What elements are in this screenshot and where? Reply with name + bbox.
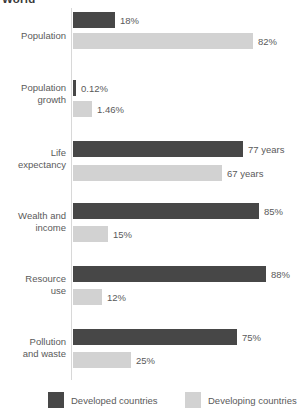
- category-label-line2: growth: [37, 94, 66, 105]
- bar-group: Populationgrowth0.12%1.46%: [0, 68, 305, 123]
- legend-item[interactable]: Developing countries: [185, 392, 297, 408]
- bar-group: Wealth andincome85%15%: [0, 198, 305, 253]
- bar-value-label: 18%: [120, 15, 139, 26]
- bar[interactable]: [73, 226, 108, 242]
- bar-row: 85%: [73, 203, 283, 219]
- bar-row: 15%: [73, 226, 132, 242]
- bar-row: 77 years: [73, 141, 284, 157]
- bar-row: 67 years: [73, 165, 263, 181]
- legend-label: Developed countries: [71, 395, 158, 406]
- bar-row: 75%: [73, 329, 261, 345]
- bar[interactable]: [73, 289, 102, 305]
- bar-value-label: 82%: [258, 36, 277, 47]
- bar[interactable]: [73, 329, 237, 345]
- bar[interactable]: [73, 33, 253, 49]
- bar-value-label: 12%: [107, 292, 126, 303]
- legend-label: Developing countries: [208, 395, 297, 406]
- bar[interactable]: [73, 12, 115, 28]
- category-label: Resourceuse: [0, 273, 66, 296]
- legend-swatch-icon: [185, 392, 201, 408]
- chart-container: World Population18%82%Populationgrowth0.…: [0, 0, 305, 419]
- bar-value-label: 15%: [113, 229, 132, 240]
- bar[interactable]: [73, 101, 92, 117]
- category-label-line2: expectancy: [18, 159, 66, 170]
- plot-area: Population18%82%Populationgrowth0.12%1.4…: [0, 8, 305, 378]
- bar-value-label: 1.46%: [97, 104, 124, 115]
- bar-row: 0.12%: [73, 80, 108, 96]
- category-label-line2: income: [35, 222, 66, 233]
- bar-value-label: 77 years: [248, 144, 284, 155]
- bar-row: 1.46%: [73, 101, 124, 117]
- bar-value-label: 75%: [242, 332, 261, 343]
- bar-row: 25%: [73, 352, 155, 368]
- bar-value-label: 88%: [271, 269, 290, 280]
- bar[interactable]: [73, 352, 131, 368]
- category-label: Populationgrowth: [0, 82, 66, 105]
- bar[interactable]: [73, 266, 266, 282]
- chart-legend: Developed countriesDeveloping countries: [0, 392, 305, 412]
- bar[interactable]: [73, 141, 243, 157]
- category-label-line2: and waste: [23, 348, 66, 359]
- category-label: Wealth andincome: [0, 210, 66, 233]
- bar[interactable]: [73, 165, 222, 181]
- bar-group: Pollutionand waste75%25%: [0, 324, 305, 379]
- bar-value-label: 85%: [264, 206, 283, 217]
- bar-group: Resourceuse88%12%: [0, 261, 305, 316]
- bar-value-label: 25%: [136, 355, 155, 366]
- bar-value-label: 67 years: [227, 168, 263, 179]
- legend-item[interactable]: Developed countries: [48, 392, 158, 408]
- bar[interactable]: [73, 80, 76, 96]
- category-label-line2: use: [51, 285, 66, 296]
- bar-group: Population18%82%: [0, 8, 305, 63]
- chart-title: World: [2, 0, 35, 5]
- bar-group: Lifeexpectancy77 years67 years: [0, 133, 305, 188]
- bar-row: 82%: [73, 33, 277, 49]
- category-label: Lifeexpectancy: [0, 147, 66, 170]
- bar-row: 88%: [73, 266, 290, 282]
- legend-swatch-icon: [48, 392, 64, 408]
- category-label: Population: [0, 30, 66, 42]
- category-label: Pollutionand waste: [0, 336, 66, 359]
- bar[interactable]: [73, 203, 259, 219]
- bar-row: 18%: [73, 12, 139, 28]
- bar-value-label: 0.12%: [81, 83, 108, 94]
- bar-row: 12%: [73, 289, 126, 305]
